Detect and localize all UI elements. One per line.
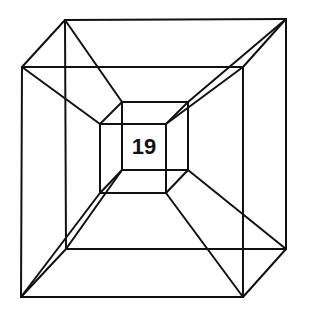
edge <box>21 249 66 297</box>
edge <box>188 19 286 102</box>
edge <box>188 170 286 249</box>
edge <box>22 20 65 67</box>
edge <box>100 102 122 124</box>
edge <box>166 67 243 124</box>
edge <box>21 67 22 297</box>
edge <box>243 19 286 67</box>
edge <box>65 20 66 249</box>
edge <box>22 67 100 124</box>
edge <box>243 249 286 297</box>
edge <box>66 170 122 249</box>
center-number-label: 19 <box>124 134 164 160</box>
edge <box>166 193 243 297</box>
edge <box>65 20 122 102</box>
edge <box>21 193 100 297</box>
edge <box>65 19 286 20</box>
edge <box>166 170 188 193</box>
